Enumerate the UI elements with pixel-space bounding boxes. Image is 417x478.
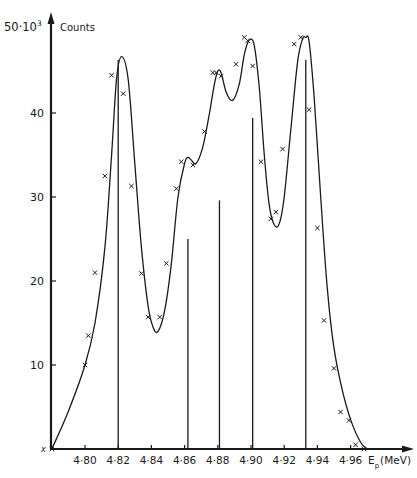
x-tick-label: 4·90 — [239, 454, 262, 466]
data-point-x-icon — [158, 315, 162, 319]
data-point-x-icon — [280, 147, 284, 151]
x-tick-label: 4·96 — [339, 454, 363, 466]
data-point-x-icon — [191, 163, 195, 167]
y-tick-label: 20 — [30, 275, 44, 288]
x-tick-label: 4·80 — [73, 454, 96, 466]
data-point-x-icon — [139, 271, 143, 275]
line-position-bars — [118, 60, 306, 449]
origin-marker: x — [40, 445, 46, 454]
fitted-curve — [52, 36, 367, 449]
x-tick-label: 4·86 — [173, 454, 197, 466]
x-tick-label: 4·88 — [206, 454, 229, 466]
data-point-x-icon — [93, 270, 97, 274]
x-tick-label: 4·92 — [273, 454, 296, 466]
data-point-x-icon — [332, 366, 336, 370]
data-point-x-icon — [259, 160, 263, 164]
data-point-x-icon — [174, 186, 178, 190]
data-point-x-icon — [86, 333, 90, 337]
data-point-x-icon — [338, 410, 342, 414]
chart-container: 10203040 4·804·824·844·864·884·904·924·9… — [0, 0, 417, 478]
data-point-x-icon — [121, 91, 125, 95]
y-tick-label: 10 — [30, 359, 44, 372]
x-tick-label: 4·94 — [306, 454, 330, 466]
y-scale-label: 50·103 — [4, 19, 42, 34]
data-point-x-icon — [250, 64, 254, 68]
data-point-x-icon — [274, 210, 278, 214]
data-point-x-icon — [299, 35, 303, 39]
x-axis-label: Ep(MeV) — [368, 454, 411, 470]
y-tick-label: 40 — [30, 107, 44, 120]
x-tick-label: 4·82 — [107, 454, 130, 466]
x-tick-label: 4·84 — [140, 454, 164, 466]
data-point-x-icon — [315, 226, 319, 230]
spectrum-chart: 10203040 4·804·824·844·864·884·904·924·9… — [0, 0, 417, 478]
data-point-x-icon — [353, 443, 357, 447]
data-point-x-icon — [234, 62, 238, 66]
data-point-x-icon — [103, 174, 107, 178]
data-point-x-icon — [164, 261, 168, 265]
data-point-x-icon — [129, 184, 133, 188]
data-point-x-icon — [292, 42, 296, 46]
data-point-x-icon — [307, 107, 311, 111]
y-tick-label: 30 — [30, 191, 44, 204]
axes — [48, 12, 415, 453]
data-point-x-icon — [179, 160, 183, 164]
data-point-markers — [50, 35, 366, 451]
y-axis-label: Counts — [60, 22, 95, 33]
data-point-x-icon — [322, 318, 326, 322]
data-point-x-icon — [109, 73, 113, 77]
y-axis-arrow-icon — [48, 12, 55, 24]
x-axis-arrow-icon — [402, 446, 414, 453]
